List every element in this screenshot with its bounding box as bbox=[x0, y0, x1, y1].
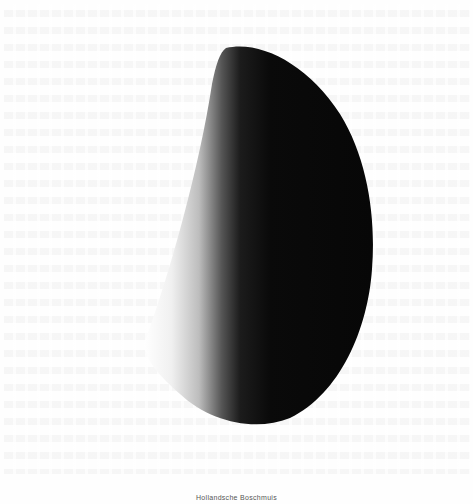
figure-caption: Hollandsche Boschmuis bbox=[0, 494, 473, 501]
orb-illustration bbox=[140, 44, 376, 426]
orb-shape bbox=[144, 46, 373, 424]
scanned-page: Hollandsche Boschmuis bbox=[0, 0, 473, 504]
